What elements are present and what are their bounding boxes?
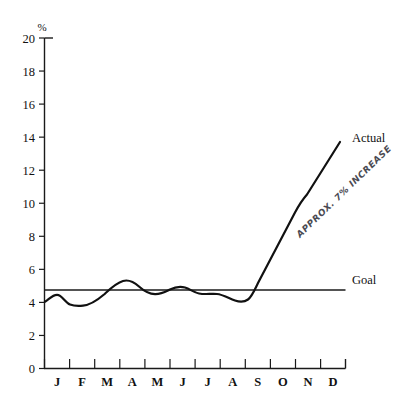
series-label-actual: Actual: [352, 131, 386, 145]
y-tick-label-14: 14: [23, 131, 36, 145]
x-tick-label-mar: M: [101, 375, 113, 389]
y-axis-unit-label: %: [37, 21, 46, 33]
y-tick-label-20: 20: [23, 32, 36, 46]
x-tick-label-jun: J: [179, 375, 185, 389]
y-tick-label-6: 6: [29, 263, 35, 277]
line-chart: 20 18 16 14 12 10 8 6 4 2 0 %: [0, 0, 407, 405]
y-tick-label-16: 16: [23, 98, 36, 112]
y-tick-label-12: 12: [23, 164, 36, 178]
x-tick-label-may: M: [151, 375, 163, 389]
x-tick-label-nov: N: [303, 375, 312, 389]
x-tick-label-sep: S: [254, 375, 261, 389]
y-tick-label-2: 2: [29, 329, 35, 343]
y-tick-label-8: 8: [29, 230, 35, 244]
chart-canvas: 20 18 16 14 12 10 8 6 4 2 0 %: [0, 0, 407, 405]
x-tick-label-aug: A: [228, 375, 237, 389]
x-tick-label-oct: O: [278, 375, 288, 389]
x-tick-label-jan: J: [54, 375, 60, 389]
x-tick-label-feb: F: [78, 375, 86, 389]
y-tick-label-4: 4: [29, 296, 36, 310]
x-tick-label-jul: J: [204, 375, 210, 389]
x-tick-label-apr: A: [128, 375, 137, 389]
series-label-goal: Goal: [352, 273, 377, 287]
y-tick-label-0: 0: [29, 362, 35, 376]
x-tick-label-dec: D: [329, 375, 338, 389]
y-tick-label-18: 18: [23, 65, 36, 79]
chart-background: [0, 0, 407, 405]
y-tick-label-10: 10: [23, 197, 36, 211]
